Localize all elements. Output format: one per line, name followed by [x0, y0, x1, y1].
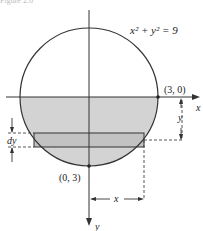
point-3-0 — [156, 95, 160, 99]
label-y-axis: y — [94, 221, 100, 231]
label-point-0-3: (0, 3) — [59, 172, 81, 184]
x-dim-arrowhead-right-icon — [138, 197, 144, 201]
label-point-3-0: (3, 0) — [164, 84, 186, 96]
label-y-dimension: y — [177, 112, 183, 123]
circle-diagram: x² + y² = 9 (3, 0) (0, 3) x y dy y x — [0, 0, 203, 231]
y-axis-arrow-icon — [86, 218, 92, 226]
label-x-dimension: x — [113, 193, 119, 204]
circle-equation: x² + y² = 9 — [129, 24, 178, 36]
x-dim-arrowhead-left-icon — [90, 197, 96, 201]
dy-arrowhead-down-icon — [10, 127, 14, 133]
label-x-axis: x — [195, 102, 201, 113]
label-dy: dy — [7, 135, 17, 146]
dy-arrowhead-up-icon — [10, 147, 14, 153]
point-0-3 — [87, 164, 91, 168]
x-axis-arrow-icon — [192, 94, 200, 100]
